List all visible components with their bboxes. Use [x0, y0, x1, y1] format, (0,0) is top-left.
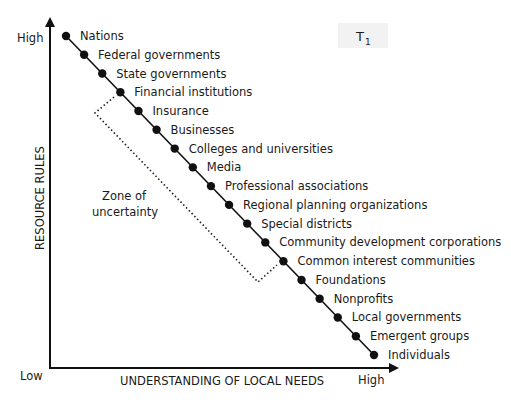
hierarchy-label: Community development corporations [279, 235, 501, 249]
y-axis-low-label: Low [20, 369, 43, 383]
hierarchy-label: Financial institutions [134, 85, 252, 99]
t1-badge: T 1 [338, 23, 388, 48]
hierarchy-item: Emergent groups [352, 329, 469, 343]
t1-badge-main: T [355, 29, 364, 44]
hierarchy-label: Emergent groups [370, 329, 469, 343]
hierarchy-label: Insurance [152, 104, 208, 118]
hierarchy-item: Federal governments [80, 48, 220, 62]
diagram-canvas: T 1 High Low High UNDERSTANDING OF LOCAL… [0, 0, 511, 404]
hierarchy-label: Local governments [352, 310, 462, 324]
hierarchy-point [98, 69, 106, 77]
hierarchy-point [334, 313, 342, 321]
hierarchy-label: Foundations [316, 273, 386, 287]
hierarchy-point [134, 107, 142, 115]
hierarchy-item: State governments [98, 67, 226, 81]
hierarchy-point [243, 219, 251, 227]
hierarchy-point [261, 238, 269, 246]
hierarchy-point [370, 351, 378, 359]
hierarchy-point [80, 51, 88, 59]
hierarchy-point [189, 163, 197, 171]
hierarchy-item: Nonprofits [315, 292, 393, 306]
hierarchy-label: Nonprofits [334, 292, 393, 306]
hierarchy-point [315, 295, 323, 303]
t1-badge-subscript: 1 [365, 37, 371, 47]
hierarchy-item: Colleges and universities [171, 142, 333, 156]
hierarchy-point [352, 332, 360, 340]
hierarchy-point [279, 257, 287, 265]
hierarchy-point [116, 88, 124, 96]
hierarchy-label: Federal governments [98, 48, 220, 62]
hierarchy-label: Media [207, 160, 242, 174]
hierarchy-item: Community development corporations [261, 235, 501, 249]
hierarchy-label: State governments [116, 67, 226, 81]
hierarchy-point [171, 144, 179, 152]
hierarchy-label: Businesses [171, 123, 235, 137]
y-axis-high-label: High [17, 31, 43, 45]
zone-label-line-1: Zone of [102, 189, 147, 203]
hierarchy-item: Local governments [334, 310, 462, 324]
hierarchy-label: Regional planning organizations [243, 198, 427, 212]
hierarchy-item: Special districts [243, 217, 352, 231]
hierarchy-label: Common interest communities [297, 254, 475, 268]
hierarchy-item: Professional associations [207, 179, 369, 193]
hierarchy-point [207, 182, 215, 190]
hierarchy-label: Colleges and universities [189, 142, 333, 156]
hierarchy-label: Special districts [261, 217, 352, 231]
zone-label-line-2: uncertainty [92, 205, 158, 219]
hierarchy-label: Individuals [388, 348, 450, 362]
hierarchy-item: Insurance [134, 104, 209, 118]
hierarchy-item: Foundations [297, 273, 385, 287]
hierarchy-label: Nations [80, 29, 124, 43]
hierarchy-point [152, 126, 160, 134]
hierarchy-point [225, 201, 233, 209]
hierarchy-item: Businesses [152, 123, 234, 137]
hierarchy-label: Professional associations [225, 179, 368, 193]
y-axis-label: RESOURCE RULES [33, 146, 47, 250]
hierarchy-item: Financial institutions [116, 85, 252, 99]
x-axis-label: UNDERSTANDING OF LOCAL NEEDS [120, 374, 324, 388]
hierarchy-point [62, 32, 70, 40]
hierarchy-item: Individuals [370, 348, 450, 362]
hierarchy-item: Common interest communities [279, 254, 475, 268]
hierarchy-item: Regional planning organizations [225, 198, 428, 212]
hierarchy-point [297, 276, 305, 284]
x-axis-high-label: High [358, 373, 384, 387]
